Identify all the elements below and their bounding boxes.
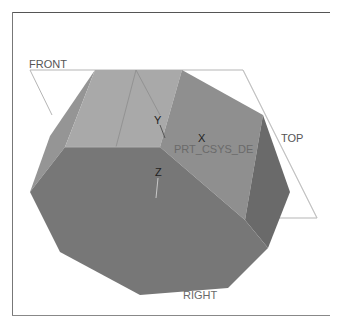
graphics-viewport[interactable]: FRONT TOP RIGHT Y X Z PRT_CSYS_DE xyxy=(0,0,341,319)
front-plane-label[interactable]: FRONT xyxy=(29,59,67,70)
csys-name-label[interactable]: PRT_CSYS_DE xyxy=(174,144,253,155)
right-plane-label[interactable]: RIGHT xyxy=(183,290,217,301)
csys-z-label: Z xyxy=(155,167,162,178)
csys-y-label: Y xyxy=(154,115,161,126)
top-plane-label[interactable]: TOP xyxy=(281,133,303,144)
front-datum-plane-edge xyxy=(30,70,52,115)
model-scene[interactable] xyxy=(0,0,341,319)
